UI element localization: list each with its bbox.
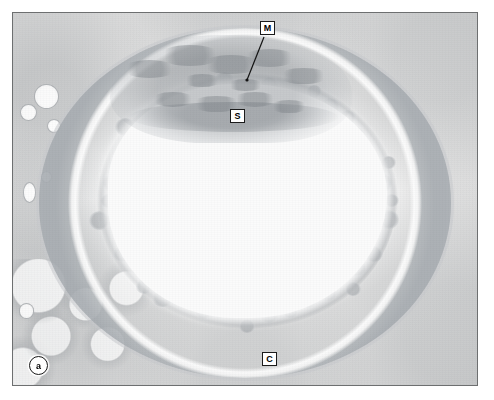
- figure-panel: M S C a: [0, 0, 494, 400]
- mucosal-fold: [227, 79, 263, 91]
- mucosal-fold: [243, 49, 296, 67]
- mucosal-scallop: [381, 156, 396, 169]
- mucosal-scallop: [89, 211, 111, 229]
- label-mucosa: M: [260, 21, 275, 35]
- micrograph-plate: M S C a: [12, 12, 478, 386]
- label-circular-muscle: C: [262, 352, 277, 366]
- panel-label-badge: a: [29, 356, 48, 375]
- blood-vessel: [19, 303, 35, 318]
- mucosal-fold: [183, 74, 222, 87]
- label-circular-muscle-text: C: [266, 355, 273, 364]
- label-submucosa-text: S: [234, 112, 240, 121]
- panel-label-text: a: [36, 361, 41, 371]
- label-submucosa: S: [230, 109, 245, 123]
- label-mucosa-text: M: [264, 24, 272, 33]
- mucosal-fold: [279, 68, 327, 84]
- mucosal-scallop: [345, 282, 361, 295]
